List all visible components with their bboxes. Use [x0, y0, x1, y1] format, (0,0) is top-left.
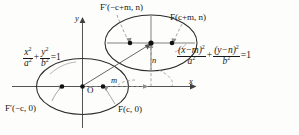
m-leader-curve [118, 80, 135, 85]
leader-lower-right-focus [106, 90, 115, 105]
focus-label-lower-left: F′(−c, 0) [5, 104, 36, 113]
focus-label-upper-right: F(c+m, n) [170, 13, 206, 22]
exponent-2: 2 [29, 56, 32, 62]
exponent-2: 2 [46, 56, 49, 62]
fraction-x-over-a: x2 a2 [23, 48, 33, 68]
fraction-b-denominator: b2 [213, 57, 240, 67]
fraction-yn-over-b: (y−n)2 b2 [213, 46, 240, 66]
translated-center-dot [148, 40, 153, 45]
focus-upper-right-dot [170, 41, 175, 46]
origin-dot [80, 84, 85, 89]
n-leader-curve [159, 70, 173, 86]
exponent-2: 2 [202, 44, 205, 50]
plus-sign: + [34, 52, 39, 62]
focus-label-lower-right: F(c, 0) [118, 105, 142, 114]
ellipse-translation-figure: x2 a2 + y2 b2 =1 (x−m)2 a2 + (y−n)2 b2 =… [0, 0, 299, 135]
focus-upper-left-dot [128, 41, 133, 46]
plus-sign: + [207, 50, 212, 60]
exponent-2: 2 [236, 44, 239, 50]
equation-translated-ellipse: (x−m)2 a2 + (y−n)2 b2 =1 [176, 46, 251, 66]
fraction-a-denominator: a2 [177, 57, 206, 67]
fraction-y-over-b: y2 b2 [40, 48, 50, 68]
vertical-shift-label: n [152, 56, 156, 65]
equation-rhs: 1 [246, 50, 251, 60]
fraction-a-denominator: a2 [23, 59, 33, 69]
exponent-2: 2 [192, 54, 195, 60]
focus-lower-right-dot [101, 84, 106, 89]
fraction-b-denominator: b2 [40, 59, 50, 69]
focus-lower-left-dot [60, 84, 65, 89]
y-axis-arrowhead [80, 17, 86, 23]
exponent-2: 2 [227, 54, 230, 60]
expression-x-minus-m: (x−m) [178, 45, 202, 55]
exponent-2: 2 [28, 46, 31, 52]
horizontal-shift-label: m [111, 76, 117, 85]
leader-upper-right-focus [174, 24, 182, 41]
y-axis-label: y [75, 14, 79, 23]
equation-standard-ellipse: x2 a2 + y2 b2 =1 [22, 48, 61, 68]
focus-label-upper-left: F′(−c+m, n) [100, 3, 143, 12]
x-axis-label: x [189, 77, 193, 86]
fraction-xm-over-a: (x−m)2 a2 [177, 46, 206, 66]
equation-rhs: 1 [56, 52, 61, 62]
origin-label: O [87, 86, 94, 95]
exponent-2: 2 [46, 46, 49, 52]
expression-y-minus-n: (y−n) [214, 45, 236, 55]
m-shift-arrowhead [143, 84, 149, 89]
leader-lower-left-focus [52, 89, 60, 102]
